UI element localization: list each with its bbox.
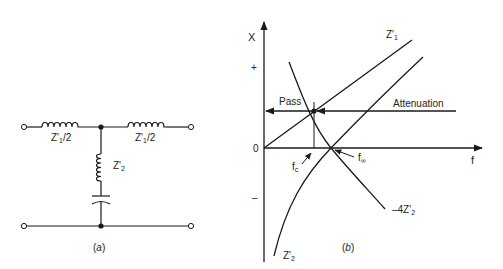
z2-curve-label: Z'2 [283, 251, 295, 262]
label-shunt: Z'2 [113, 161, 125, 172]
label-series-right: Z'1/2 [135, 133, 155, 144]
reactance-graph [264, 22, 482, 262]
terminal-bottom-left [21, 223, 26, 228]
plus-tick-label: + [251, 63, 257, 73]
terminal-bottom-right [188, 223, 193, 228]
circuit-nodes [21, 124, 193, 228]
terminal-top-right [188, 124, 193, 129]
series-inductor-right [128, 123, 166, 128]
junction-bottom [98, 223, 103, 228]
cutoff-intersection-dot [311, 108, 316, 113]
fc-label: fc [292, 162, 298, 173]
minus-tick-label: – [252, 193, 258, 203]
label-series-left: Z'1/2 [51, 133, 71, 144]
curve-z1 [264, 40, 412, 148]
terminal-top-left [21, 124, 26, 129]
series-inductor-left [42, 123, 80, 128]
junction-top [98, 124, 103, 129]
y-axis-label: X [248, 32, 255, 43]
caption-b: (b) [342, 243, 354, 253]
curve-minus-4z2 [289, 62, 385, 209]
finf-label: f∞ [358, 153, 366, 164]
pass-label: Pass [279, 97, 301, 107]
x-axis-label: f [471, 155, 474, 166]
z1-curve-label: Z'1 [386, 30, 398, 41]
fc-pointer [302, 153, 311, 164]
shunt-inductor [97, 154, 102, 181]
minus4z2-curve-label: –4Z'2 [392, 205, 415, 216]
origin-label: 0 [253, 144, 259, 154]
caption-a: (a) [93, 243, 105, 253]
attenuation-label: Attenuation [393, 99, 444, 109]
